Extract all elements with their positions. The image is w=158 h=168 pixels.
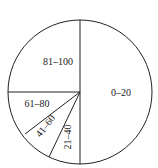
slice-label-61-80: 61–80: [25, 98, 50, 109]
slice-label-0-20: 0–20: [111, 87, 131, 98]
slice-label-21-40: 21–40: [62, 125, 73, 150]
slice-label-81-100: 81–100: [43, 56, 73, 67]
pie-chart: 0–20 81–100 61–80 41–60 21–40: [0, 0, 158, 168]
